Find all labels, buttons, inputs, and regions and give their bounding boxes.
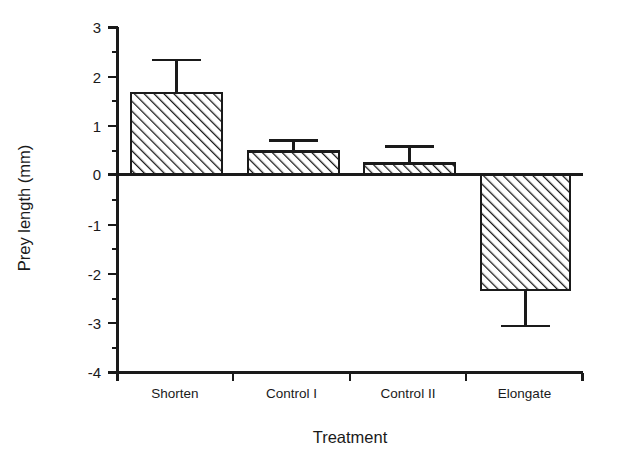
x-tick-label-elongate: Elongate (498, 386, 551, 401)
y-axis-title: Prey length (mm) (15, 145, 33, 272)
x-tick-label-shorten: Shorten (151, 386, 198, 401)
bar-shorten[interactable] (131, 93, 222, 175)
y-tick-label-neg4: -4 (88, 364, 101, 381)
y-tick-label-1: 1 (93, 118, 101, 135)
bar-elongate[interactable] (481, 175, 570, 291)
y-tick-label-neg3: -3 (88, 315, 101, 332)
y-tick-label-neg1: -1 (88, 217, 101, 234)
y-tick-label-2: 2 (93, 69, 101, 86)
bar-control-ii[interactable] (364, 164, 455, 175)
x-tick-label-control-i: Control I (266, 386, 317, 401)
x-tick-label-control-ii: Control II (381, 386, 436, 401)
y-tick-label-3: 3 (93, 19, 101, 36)
bar-control-i[interactable] (248, 152, 339, 175)
bar-chart-svg: 3 2 1 0 -1 -2 -3 -4 (0, 0, 617, 462)
y-tick-label-0: 0 (93, 166, 101, 183)
x-axis-title: Treatment (313, 428, 388, 446)
y-tick-label-neg2: -2 (88, 266, 101, 283)
chart-figure: 3 2 1 0 -1 -2 -3 -4 (0, 0, 617, 462)
